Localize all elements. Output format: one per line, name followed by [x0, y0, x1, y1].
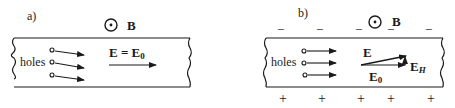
svg-text:−: − — [387, 22, 394, 37]
e-vector-label: E — [363, 45, 372, 60]
svg-text:+: + — [318, 91, 326, 106]
panel-a-label: a) — [27, 9, 36, 23]
bottom-positive-charges: + + + + + — [279, 91, 435, 106]
hall-effect-diagram: a) B holes E = E0 b) — [0, 0, 455, 108]
svg-text:−: − — [277, 22, 284, 37]
equation-label: E = E0 — [109, 45, 145, 61]
svg-text:+: + — [357, 91, 365, 106]
b-field-label: B — [127, 18, 136, 33]
panel-b-label: b) — [298, 6, 308, 20]
svg-text:+: + — [279, 91, 287, 106]
hole-carriers — [50, 48, 84, 80]
svg-text:−: − — [425, 22, 432, 37]
svg-text:−: − — [355, 22, 362, 37]
svg-text:+: + — [387, 91, 395, 106]
panel-a: a) B holes E = E0 — [11, 9, 191, 87]
b-field-out-icon — [369, 16, 381, 28]
panel-b: b) B − − − − − holes — [264, 6, 445, 106]
svg-text:−: − — [316, 22, 323, 37]
holes-label: holes — [20, 55, 46, 69]
top-negative-charges: − − − − − — [277, 22, 432, 37]
svg-text:+: + — [427, 91, 435, 106]
eh-vector-label: EH — [410, 59, 427, 75]
hole-carriers — [302, 49, 336, 77]
holes-label: holes — [271, 55, 297, 69]
e0-vector-label: E0 — [369, 69, 383, 85]
b-field-out-icon — [105, 19, 117, 31]
